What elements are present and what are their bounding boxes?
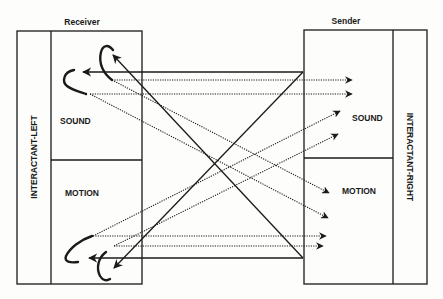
sender-header: Sender	[332, 16, 362, 26]
right-motion-label: MOTION	[342, 186, 376, 196]
right-sound-label: SOUND	[352, 113, 383, 123]
left-sound-label: SOUND	[60, 116, 91, 126]
feedback-lines	[83, 55, 303, 268]
signal-lines	[90, 80, 352, 246]
communication-diagram: Receiver Sender INTERACTANT-LEFT SOUND M…	[0, 0, 443, 299]
receiver-curves	[64, 46, 113, 280]
left-motion-label: MOTION	[65, 188, 99, 198]
interactant-right-label: INTERACTANT-RIGHT	[405, 113, 415, 202]
interactant-left-label: INTERACTANT-LEFT	[29, 114, 39, 198]
receiver-header: Receiver	[64, 17, 100, 27]
